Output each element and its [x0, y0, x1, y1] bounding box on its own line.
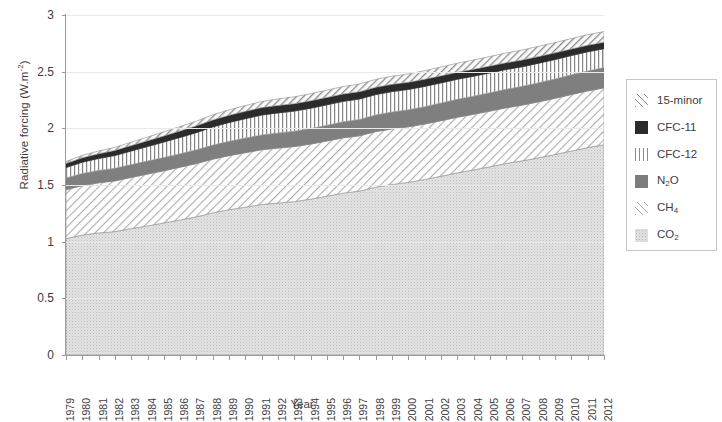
legend-swatch-cfc-11 — [635, 121, 648, 134]
y-tick-label: 1 — [20, 235, 54, 249]
y-tick-mark — [62, 72, 66, 73]
legend-item-label: 15-minor — [657, 95, 702, 107]
legend-swatch-co2 — [635, 229, 648, 242]
legend-swatch-cfc-12 — [635, 148, 648, 161]
legend-swatch-ch4 — [635, 202, 648, 215]
y-tick-mark — [62, 128, 66, 129]
legend-item-label: CO2 — [657, 229, 679, 242]
gridline — [66, 242, 604, 243]
legend-item: N2O — [635, 168, 716, 195]
x-axis-title: Year — [0, 398, 604, 410]
y-tick-mark — [62, 185, 66, 186]
plot-area — [66, 15, 604, 355]
legend-item-label: CFC-11 — [657, 122, 696, 134]
legend-item-label: N2O — [657, 175, 679, 188]
legend-item-label: CFC-12 — [657, 149, 697, 161]
gridline — [66, 185, 604, 186]
y-tick-mark — [62, 242, 66, 243]
legend-item: CH4 — [635, 195, 716, 222]
legend-item-label: CH4 — [657, 202, 678, 215]
legend-item: 15-minor — [635, 87, 716, 114]
legend-item: CFC-11 — [635, 114, 716, 141]
y-tick-label: 0.5 — [20, 291, 54, 305]
y-axis-tick-labels: 00.511.522.53 — [18, 0, 54, 422]
gridline — [66, 72, 604, 73]
legend-swatch-n2o — [635, 175, 648, 188]
y-tick-label: 1.5 — [20, 178, 54, 192]
y-tick-label: 2 — [20, 121, 54, 135]
x-tick-mark — [604, 356, 605, 360]
chart-legend: 15-minorCFC-11CFC-12N2OCH4CO2 — [626, 79, 717, 251]
gridline — [66, 15, 604, 16]
chart-figure: Radiative forcing (W.m-2) 00.511.522.53 — [0, 0, 722, 422]
y-tick-label: 2.5 — [20, 65, 54, 79]
legend-item: CFC-12 — [635, 141, 716, 168]
legend-item: CO2 — [635, 222, 716, 249]
y-tick-mark — [62, 298, 66, 299]
legend-swatch-15-minor — [635, 94, 648, 107]
y-tick-label: 0 — [20, 348, 54, 362]
gridline — [66, 298, 604, 299]
y-tick-mark — [62, 15, 66, 16]
gridline — [66, 128, 604, 129]
y-tick-label: 3 — [20, 8, 54, 22]
x-axis-tick-labels: 1979198019811982198319841985198619871988… — [66, 360, 604, 402]
